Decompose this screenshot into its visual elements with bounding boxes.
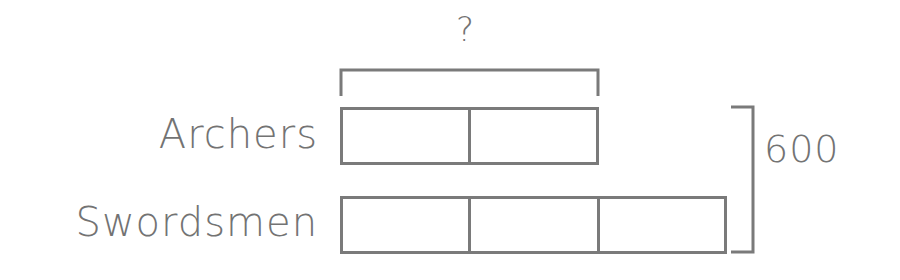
total-bracket [731,107,753,252]
archers-unit-2 [468,107,599,165]
total-label: 600 [764,130,840,168]
unknown-bracket [341,70,598,96]
swordsmen-unit-3 [597,196,727,254]
swordsmen-unit-1 [340,196,471,254]
row-label-swordsmen: Swordsmen [18,202,318,242]
archers-unit-1 [340,107,471,165]
row-label-archers: Archers [18,114,318,154]
swordsmen-unit-2 [468,196,600,254]
